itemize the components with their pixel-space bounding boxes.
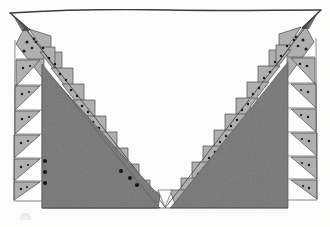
geometric-v-pattern-illustration — [0, 0, 330, 227]
drawing-canvas — [0, 0, 330, 227]
